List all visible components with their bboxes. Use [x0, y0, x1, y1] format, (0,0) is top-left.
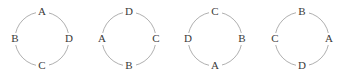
vertex-label-top-2: D	[123, 6, 136, 18]
vertex-label-left-4: C	[269, 33, 282, 45]
circle-diagram-4: B A D C	[260, 0, 346, 76]
vertex-label-top-1: A	[36, 6, 49, 18]
vertex-label-left-1: B	[9, 33, 22, 45]
circle-diagram-1: A D C B	[0, 0, 86, 76]
vertex-label-bottom-2: B	[123, 60, 136, 72]
vertex-label-bottom-4: D	[296, 60, 309, 72]
circle-diagram-2: D C B A	[87, 0, 173, 76]
vertex-label-right-3: B	[236, 33, 249, 45]
vertex-label-right-1: D	[63, 33, 76, 45]
vertex-label-top-4: B	[296, 6, 309, 18]
circle-diagram-3: C B A D	[173, 0, 259, 76]
vertex-label-bottom-3: A	[209, 60, 222, 72]
vertex-label-left-3: D	[182, 33, 195, 45]
vertex-label-right-2: C	[150, 33, 163, 45]
figure-canvas: A D C B D C B A C B A D B A D C	[0, 0, 349, 76]
vertex-label-top-3: C	[209, 6, 222, 18]
vertex-label-bottom-1: C	[36, 60, 49, 72]
vertex-label-right-4: A	[323, 33, 336, 45]
vertex-label-left-2: A	[96, 33, 109, 45]
